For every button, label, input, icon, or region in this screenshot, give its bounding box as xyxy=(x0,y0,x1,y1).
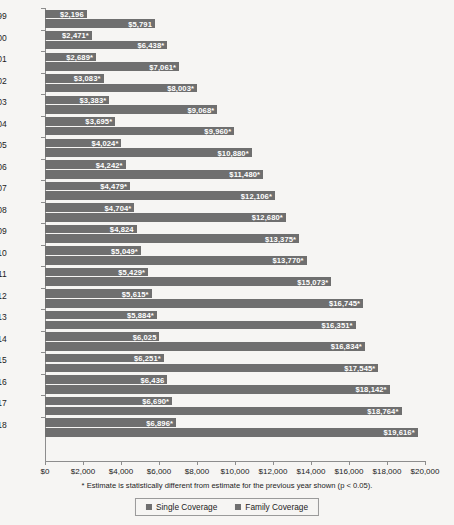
chart-row: 2007$4,479*$12,106* xyxy=(45,180,425,202)
bar-family[interactable]: $13,375* xyxy=(45,234,299,243)
legend-label-single: Single Coverage xyxy=(156,502,217,512)
bar-family[interactable]: $13,770* xyxy=(45,256,307,265)
bar-value-label: $15,073* xyxy=(297,277,328,286)
year-label: 2000 xyxy=(0,33,7,43)
x-tick-mark xyxy=(83,461,84,465)
chart-row: 2012$5,615*$16,745* xyxy=(45,288,425,310)
x-tick-label: $12,000 xyxy=(259,467,288,476)
bar-value-label: $9,068* xyxy=(187,105,214,114)
bar-single[interactable]: $5,884* xyxy=(45,311,157,320)
bar-value-label: $5,884* xyxy=(127,311,154,320)
x-tick-mark xyxy=(121,461,122,465)
bar-value-label: $4,242* xyxy=(96,160,123,169)
x-tick-label: $20,000 xyxy=(411,467,440,476)
chart-row: 1999$2,196$5,791 xyxy=(45,8,425,30)
bar-single[interactable]: $6,690* xyxy=(45,397,172,406)
year-label: 2016 xyxy=(0,377,7,387)
bar-value-label: $18,764* xyxy=(367,406,398,415)
bar-value-label: $5,049* xyxy=(111,246,138,255)
x-tick-label: $8,000 xyxy=(185,467,209,476)
bar-single[interactable]: $5,049* xyxy=(45,246,141,255)
bar-family[interactable]: $19,616* xyxy=(45,428,418,437)
bar-family[interactable]: $12,106* xyxy=(45,191,275,200)
x-tick-label: $14,000 xyxy=(297,467,326,476)
year-label: 2008 xyxy=(0,205,7,215)
bar-family[interactable]: $11,480* xyxy=(45,170,263,179)
bar-family[interactable]: $16,745* xyxy=(45,299,363,308)
bar-value-label: $16,351* xyxy=(321,320,352,329)
x-tick-mark xyxy=(311,461,312,465)
x-tick-label: $6,000 xyxy=(147,467,171,476)
bar-single[interactable]: $5,429* xyxy=(45,268,148,277)
x-tick-label: $18,000 xyxy=(373,467,402,476)
bar-value-label: $10,880* xyxy=(218,148,249,157)
bar-single[interactable]: $4,824 xyxy=(45,225,137,234)
bar-family[interactable]: $12,680* xyxy=(45,213,286,222)
chart-row: 2013$5,884*$16,351* xyxy=(45,309,425,331)
bar-family[interactable]: $18,764* xyxy=(45,407,402,416)
bar-family[interactable]: $16,834* xyxy=(45,342,365,351)
bar-family[interactable]: $10,880* xyxy=(45,148,252,157)
bar-single[interactable]: $2,196 xyxy=(45,10,87,19)
bar-single[interactable]: $3,695* xyxy=(45,117,115,126)
bar-single[interactable]: $4,479* xyxy=(45,182,130,191)
bar-value-label: $2,689* xyxy=(66,52,93,61)
year-label: 2013 xyxy=(0,312,7,322)
bar-value-label: $5,615* xyxy=(122,289,149,298)
bar-value-label: $13,770* xyxy=(272,256,303,265)
bar-family[interactable]: $7,061* xyxy=(45,62,179,71)
bar-value-label: $3,695* xyxy=(85,117,112,126)
bar-single[interactable]: $6,436 xyxy=(45,375,167,384)
bar-value-label: $6,690* xyxy=(142,397,169,406)
bar-single[interactable]: $5,615* xyxy=(45,289,152,298)
bar-value-label: $5,429* xyxy=(118,268,145,277)
legend-item-single[interactable]: Single Coverage xyxy=(146,502,217,512)
year-label: 2004 xyxy=(0,119,7,129)
year-label: 2018 xyxy=(0,420,7,430)
plot-area: 1999$2,196$5,7912000$2,471*$6,438*2001$2… xyxy=(45,8,425,460)
bar-single[interactable]: $4,242* xyxy=(45,160,126,169)
bar-value-label: $13,375* xyxy=(265,234,296,243)
bar-single[interactable]: $6,025 xyxy=(45,332,159,341)
bar-family[interactable]: $15,073* xyxy=(45,277,331,286)
bar-family[interactable]: $9,960* xyxy=(45,127,234,136)
x-axis-ticks: $0$2,000$4,000$6,000$8,000$10,000$12,000… xyxy=(45,461,425,481)
legend-label-family: Family Coverage xyxy=(245,502,308,512)
bar-single[interactable]: $3,383* xyxy=(45,96,109,105)
bar-family[interactable]: $16,351* xyxy=(45,321,356,330)
bar-family[interactable]: $17,545* xyxy=(45,364,378,373)
bar-single[interactable]: $4,704* xyxy=(45,203,134,212)
bar-value-label: $6,896* xyxy=(146,418,173,427)
bar-value-label: $12,680* xyxy=(252,213,283,222)
bar-value-label: $2,196 xyxy=(60,9,84,18)
bar-value-label: $9,960* xyxy=(204,127,231,136)
x-tick-mark xyxy=(387,461,388,465)
chart-row: 2001$2,689*$7,061* xyxy=(45,51,425,73)
year-label: 2012 xyxy=(0,291,7,301)
year-label: 2017 xyxy=(0,398,7,408)
bar-value-label: $11,480* xyxy=(229,170,260,179)
x-tick-mark xyxy=(425,461,426,465)
bar-single[interactable]: $2,471* xyxy=(45,31,92,40)
chart-row: 2016$6,436$18,142* xyxy=(45,374,425,396)
bar-family[interactable]: $9,068* xyxy=(45,105,217,114)
bar-single[interactable]: $2,689* xyxy=(45,53,96,62)
year-label: 2002 xyxy=(0,76,7,86)
bar-family[interactable]: $6,438* xyxy=(45,41,167,50)
year-label: 2011 xyxy=(0,269,7,279)
legend-item-family[interactable]: Family Coverage xyxy=(235,502,308,512)
bar-single[interactable]: $6,251* xyxy=(45,354,164,363)
bar-single[interactable]: $6,896* xyxy=(45,418,176,427)
bar-single[interactable]: $4,024* xyxy=(45,139,121,148)
bar-family[interactable]: $5,791 xyxy=(45,19,155,28)
bar-family[interactable]: $18,142* xyxy=(45,385,390,394)
x-tick-mark xyxy=(273,461,274,465)
chart-row: 2010$5,049*$13,770* xyxy=(45,245,425,267)
chart-row: 2009$4,824$13,375* xyxy=(45,223,425,245)
year-label: 2005 xyxy=(0,140,7,150)
bar-single[interactable]: $3,083* xyxy=(45,74,104,83)
x-tick-mark xyxy=(235,461,236,465)
year-label: 2003 xyxy=(0,97,7,107)
bar-family[interactable]: $8,003* xyxy=(45,84,197,93)
footnote: * Estimate is statistically different fr… xyxy=(0,481,454,490)
